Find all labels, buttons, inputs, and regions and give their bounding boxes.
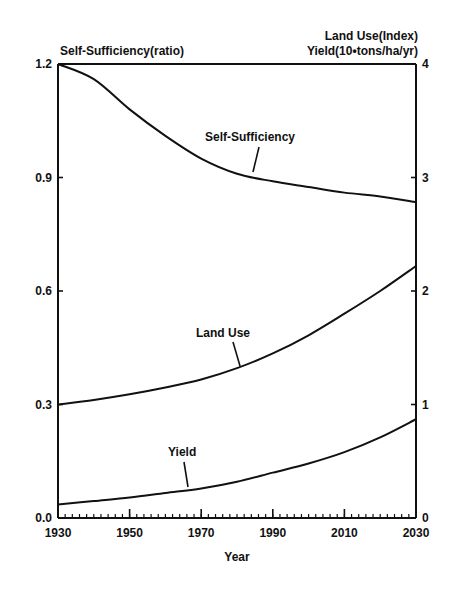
x-tick-label: 1970 (188, 526, 215, 540)
x-axis-title: Year (224, 550, 250, 564)
land-use-leader-line (233, 342, 240, 366)
right-y-tick-label: 4 (422, 57, 429, 71)
right-y-tick-label: 3 (422, 171, 429, 185)
left-axis-title: Self-Sufficiency(ratio) (60, 44, 184, 58)
land-use-label: Land Use (196, 326, 250, 340)
right-y-tick-label: 2 (422, 284, 429, 298)
x-tick-label: 2010 (331, 526, 358, 540)
left-y-tick-label: 0.9 (35, 171, 52, 185)
right-y-tick-label: 1 (422, 398, 429, 412)
right-y-tick-label: 0 (422, 511, 429, 525)
left-y-tick-label: 1.2 (35, 57, 52, 71)
right-axis-title-land-use: Land Use(Index) (325, 29, 418, 43)
self-sufficiency-leader-line (253, 147, 259, 172)
x-axis-ticks: 193019501970199020102030 (45, 509, 430, 540)
x-tick-label: 1950 (116, 526, 143, 540)
self-sufficiency-label: Self-Sufficiency (205, 130, 295, 144)
left-y-tick-label: 0.6 (35, 284, 52, 298)
x-tick-label: 1990 (259, 526, 286, 540)
x-tick-label: 1930 (45, 526, 72, 540)
yield-label: Yield (168, 445, 196, 459)
yield-leader-line (184, 462, 188, 487)
yield-line (58, 419, 416, 504)
right-axis-title-yield: Yield(10•tons/ha/yr) (307, 44, 418, 58)
right-y-axis-ticks: 01234 (411, 57, 429, 525)
left-y-tick-label: 0.0 (35, 511, 52, 525)
line-chart: Self-Sufficiency(ratio) Land Use(Index) … (0, 0, 457, 596)
left-y-tick-label: 0.3 (35, 398, 52, 412)
x-tick-label: 2030 (403, 526, 430, 540)
